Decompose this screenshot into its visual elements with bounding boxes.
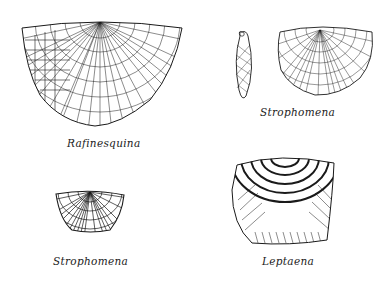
- caption-strophomena-bottom: Strophomena: [53, 255, 128, 267]
- caption-strophomena-top: Strophomena: [260, 106, 335, 118]
- rafinesquina-shell-drawing: [0, 0, 390, 282]
- caption-leptaena: Leptaena: [262, 255, 314, 267]
- strophomena-side-view: [236, 32, 251, 99]
- caption-rafinesquina: Rafinesquina: [67, 137, 140, 149]
